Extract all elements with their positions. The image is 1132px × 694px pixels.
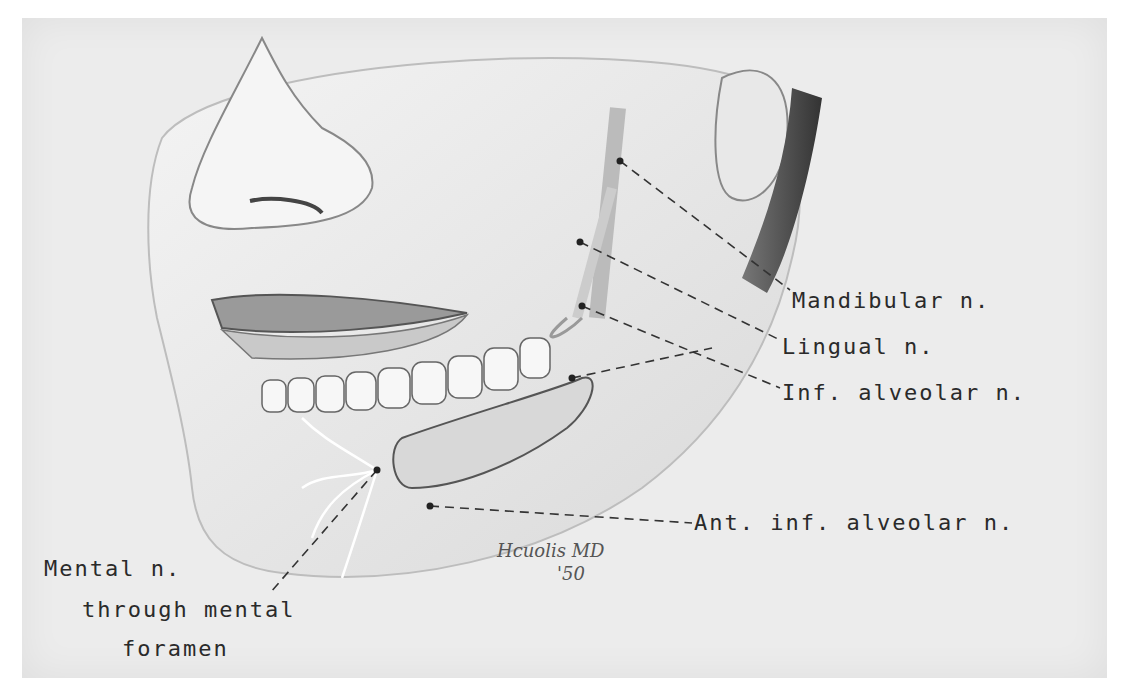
illustration-plate: Mandibular n. Lingual n. Inf. alveolar n… bbox=[22, 18, 1107, 678]
label-mental-nerve-line3: foramen bbox=[122, 638, 229, 660]
artist-signature: Hcuolis MD bbox=[497, 540, 605, 561]
label-lingual-nerve: Lingual n. bbox=[782, 336, 934, 358]
label-mandibular-nerve: Mandibular n. bbox=[792, 290, 990, 312]
label-mental-nerve-line2: through mental bbox=[82, 599, 295, 621]
signature-year: '50 bbox=[557, 563, 585, 584]
label-mental-nerve-line1: Mental n. bbox=[44, 558, 181, 580]
label-inf-alveolar-nerve: Inf. alveolar n. bbox=[782, 382, 1026, 404]
label-ant-inf-alveolar-nerve: Ant. inf. alveolar n. bbox=[694, 512, 1014, 534]
